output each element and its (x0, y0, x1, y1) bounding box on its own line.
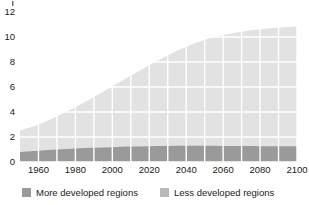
y-tick-label: 6 (10, 81, 15, 92)
x-tick-label: 2020 (139, 164, 160, 175)
x-tick-label: 2040 (176, 164, 197, 175)
chart-plot-area: 024681012 196019802000202020402060208021… (0, 0, 309, 175)
x-tick-label: 2100 (286, 164, 307, 175)
x-axis-tick-labels: 19601980200020202040206020802100 (28, 164, 308, 175)
x-tick-label: 2080 (249, 164, 270, 175)
legend-label-less-developed: Less developed regions (174, 187, 274, 198)
legend-item-less-developed: Less developed regions (160, 187, 274, 198)
y-tick-label: 12 (4, 6, 15, 17)
y-tick-label: 4 (10, 106, 15, 117)
y-tick-label: 8 (10, 56, 15, 67)
legend-label-more-developed: More developed regions (36, 187, 138, 198)
y-tick-label: 0 (10, 156, 15, 167)
chart-legend: More developed regions Less developed re… (0, 179, 309, 205)
y-axis-tick-labels: 024681012 (4, 6, 15, 167)
y-tick-label: 10 (4, 31, 15, 42)
x-tick-label: 2000 (102, 164, 123, 175)
legend-item-more-developed: More developed regions (22, 187, 138, 198)
y-tick-label: 2 (10, 131, 15, 142)
legend-swatch-more-developed (22, 188, 31, 197)
legend-swatch-less-developed (160, 188, 169, 197)
x-tick-label: 2060 (213, 164, 234, 175)
y-axis-top-stub (12, 1, 14, 6)
x-tick-label: 1980 (65, 164, 86, 175)
stacked-area-chart: 024681012 196019802000202020402060208021… (0, 0, 309, 205)
x-tick-label: 1960 (28, 164, 49, 175)
